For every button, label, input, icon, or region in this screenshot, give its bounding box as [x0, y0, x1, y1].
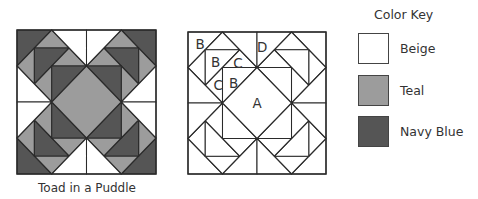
piece-label-b: B	[195, 36, 204, 52]
beige-swatch	[358, 33, 389, 64]
block-caption: Toad in a Puddle	[30, 181, 144, 195]
piece-label-c: C	[213, 77, 222, 93]
piece-label-d: D	[257, 39, 267, 55]
piece-label-b: B	[211, 54, 220, 70]
quilt-block-labeled: BDBCBCA	[188, 32, 326, 174]
piece-label-c: C	[233, 55, 242, 71]
colored-quilt-diagram	[17, 30, 156, 174]
color-key-label: Beige	[400, 41, 435, 56]
color-key-navy: Navy Blue	[358, 115, 463, 148]
color-key-label: Teal	[400, 83, 424, 98]
piece-label-a: A	[252, 95, 262, 111]
color-key-title: Color Key	[374, 7, 433, 22]
color-key-teal: Teal	[358, 74, 424, 107]
color-key-label: Navy Blue	[400, 124, 463, 139]
quilt-block-colored	[17, 30, 156, 174]
color-key-beige: Beige	[358, 32, 435, 65]
piece-label-b: B	[229, 74, 238, 90]
labeled-piece-diagram: BDBCBCA	[188, 32, 326, 174]
navy-swatch	[358, 116, 389, 147]
teal-swatch	[358, 75, 389, 106]
